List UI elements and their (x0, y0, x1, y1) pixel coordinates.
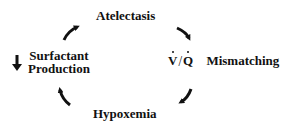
arrow-surfactant-to-atelectasis-icon (64, 27, 77, 40)
arrow-hypoxemia-to-surfactant-icon (60, 90, 70, 105)
q-dot-symbol: Q (183, 54, 193, 67)
vq-ratio: V/Q (168, 54, 193, 67)
production-label: Production (28, 62, 90, 75)
node-atelectasis: Atelectasis (96, 9, 155, 22)
arrow-vq-to-hypoxemia-icon (181, 89, 191, 102)
decrease-arrow-icon (12, 55, 22, 71)
node-vq-mismatching: V/Q Mismatching (168, 54, 279, 67)
arrow-atelectasis-to-vq-icon (177, 28, 189, 38)
cycle-diagram: Atelectasis V/Q Mismatching Hypoxemia Su… (0, 0, 282, 134)
v-dot-symbol: V (168, 54, 177, 67)
ratio-slash: / (178, 53, 182, 69)
mismatching-label: Mismatching (206, 53, 279, 68)
node-hypoxemia: Hypoxemia (93, 107, 157, 120)
